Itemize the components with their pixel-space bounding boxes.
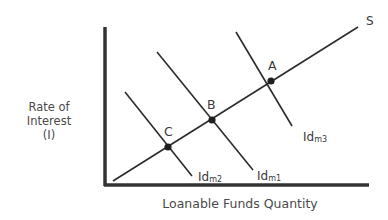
y-axis-label-line-3: (I) <box>14 128 84 142</box>
x-axis-label: Loanable Funds Quantity <box>120 196 360 211</box>
demand-label-idm3: Idm3 <box>303 130 327 144</box>
demand-label-idm1: Idm1 <box>257 169 281 183</box>
demand-label-idm2: Idm2 <box>198 170 222 184</box>
demand-curve-idm3 <box>236 32 292 126</box>
point-b-label: B <box>207 97 216 112</box>
point-a-label: A <box>268 58 277 73</box>
demand-curve-idm1 <box>157 52 253 170</box>
point-c-label: C <box>164 124 173 139</box>
point-c-marker <box>164 143 171 150</box>
y-axis-label: Rate of Interest (I) <box>14 100 84 142</box>
y-axis-label-line-2: Interest <box>14 114 84 128</box>
supply-curve <box>113 27 358 181</box>
point-b-marker <box>208 116 215 123</box>
point-a-marker <box>267 77 274 84</box>
y-axis-label-line-1: Rate of <box>14 100 84 114</box>
supply-label: S <box>366 14 374 28</box>
demand-curve-idm2 <box>125 92 192 176</box>
